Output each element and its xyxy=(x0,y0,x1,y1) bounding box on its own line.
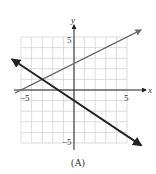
figure-caption: (A) xyxy=(0,157,156,168)
coordinate-plane: −555−5xy xyxy=(0,0,156,174)
y-tick-label-neg5: −5 xyxy=(62,137,72,147)
axes xyxy=(14,25,146,150)
x-tick-label-neg5: −5 xyxy=(20,93,30,103)
x-axis-label: x xyxy=(147,85,152,95)
y-axis-label: y xyxy=(70,15,75,25)
x-tick-label-5: 5 xyxy=(124,93,129,103)
y-tick-label-5: 5 xyxy=(67,35,72,45)
line-1 xyxy=(16,30,141,93)
